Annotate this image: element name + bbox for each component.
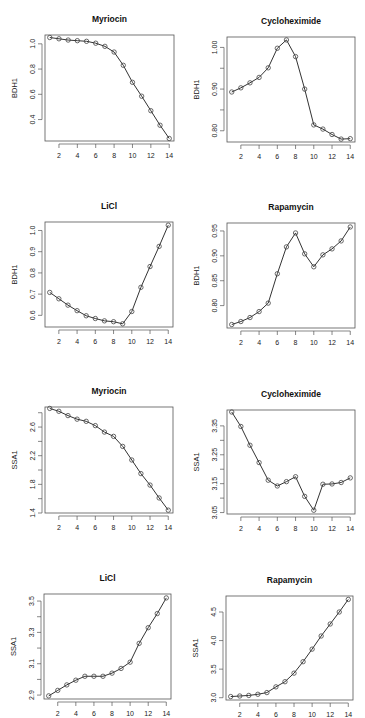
y-tick-label: 3.35 [211, 419, 218, 433]
y-tick-label: 0.90 [211, 82, 218, 96]
x-tick-label: 8 [292, 711, 296, 718]
plot-frame [227, 37, 355, 142]
x-tick-label: 14 [346, 153, 354, 160]
x-tick-label: 14 [344, 711, 352, 718]
x-tick-label: 14 [164, 524, 172, 531]
y-tick-label: 3.5 [28, 596, 35, 606]
x-tick-label: 12 [147, 152, 155, 159]
x-tick-label: 4 [75, 152, 79, 159]
y-tick-label: 4.5 [210, 607, 217, 617]
y-axis-label: BDH1 [192, 265, 201, 285]
data-line [232, 412, 351, 510]
x-tick-label: 12 [146, 338, 154, 345]
y-tick-label: 3.15 [211, 477, 218, 491]
y-tick-label: 4.0 [210, 636, 217, 646]
y-tick-label: 0.6 [29, 89, 36, 99]
chart-title: Rapamycin [267, 575, 312, 585]
plot-frame [227, 223, 355, 328]
x-tick-label: 8 [110, 710, 114, 717]
y-tick-label: 1.0 [29, 226, 36, 236]
y-tick-label: 3.1 [28, 659, 35, 669]
x-tick-label: 12 [328, 339, 336, 346]
y-axis-label: BDH1 [10, 78, 19, 98]
x-tick-label: 8 [294, 153, 298, 160]
y-tick-label: 0.80 [211, 124, 218, 138]
x-tick-label: 2 [57, 524, 61, 531]
x-tick-label: 14 [165, 152, 173, 159]
x-tick-label: 4 [257, 525, 261, 532]
y-tick-label: 2.2 [29, 451, 36, 461]
x-tick-label: 6 [93, 338, 97, 345]
y-tick-label: 1.0 [29, 39, 36, 49]
x-tick-label: 6 [275, 525, 279, 532]
x-tick-label: 10 [310, 339, 318, 346]
x-tick-label: 6 [275, 153, 279, 160]
y-tick-label: 2.6 [29, 422, 36, 432]
data-line [232, 227, 351, 325]
x-tick-label: 6 [93, 524, 97, 531]
x-tick-label: 12 [328, 153, 336, 160]
y-tick-label: 1.4 [29, 508, 36, 518]
x-tick-label: 6 [94, 152, 98, 159]
x-tick-label: 10 [128, 338, 136, 345]
x-tick-label: 10 [129, 152, 137, 159]
chart-title: Myriocin [92, 14, 127, 24]
x-tick-label: 2 [56, 710, 60, 717]
y-tick-label: 0.6 [29, 310, 36, 320]
x-tick-label: 2 [238, 711, 242, 718]
y-axis-label: SSA1 [9, 637, 18, 656]
y-tick-label: 0.8 [29, 64, 36, 74]
chart-panel-rapamycin-bdh1: Rapamycin24681012140.800.850.900.95BDH1 [182, 180, 364, 359]
chart-panel-licl-bdh1: LiCl24681012140.60.70.80.91.0BDH1 [0, 180, 182, 359]
y-axis-label: BDH1 [192, 79, 201, 99]
chart-panel-cycloheximide-bdh1: Cycloheximide24681012140.800.901.00BDH1 [182, 0, 364, 179]
data-line [232, 40, 351, 139]
data-line [50, 38, 169, 139]
y-tick-label: 0.80 [211, 299, 218, 313]
y-axis-label: SSA1 [10, 450, 19, 469]
chart-title: Cycloheximide [261, 389, 321, 399]
x-tick-label: 2 [239, 339, 243, 346]
chart-panel-rapamycin-ssa1: Rapamycin24681012143.03.54.04.5SSA1 [182, 540, 364, 718]
x-tick-label: 2 [57, 338, 61, 345]
y-axis-label: SSA1 [191, 638, 200, 657]
chart-panel-myriocin-ssa1: Myriocin24681012141.41.82.22.6SSA1 [0, 360, 182, 539]
chart-grid: Myriocin24681012140.40.60.81.0BDH1Cycloh… [0, 0, 365, 718]
x-tick-label: 6 [274, 711, 278, 718]
y-tick-label: 3.25 [211, 448, 218, 462]
data-line [50, 408, 169, 510]
x-tick-label: 6 [275, 339, 279, 346]
y-tick-label: 0.4 [29, 115, 36, 125]
y-axis-label: SSA1 [192, 452, 201, 471]
x-tick-label: 4 [75, 338, 79, 345]
y-axis-label: BDH1 [10, 264, 19, 284]
x-tick-label: 12 [144, 710, 152, 717]
plot-frame [44, 594, 171, 699]
y-tick-label: 3.0 [210, 693, 217, 703]
x-tick-label: 12 [328, 525, 336, 532]
data-line [50, 225, 169, 324]
y-tick-label: 0.8 [29, 268, 36, 278]
x-tick-label: 4 [257, 153, 261, 160]
y-tick-label: 0.90 [211, 249, 218, 263]
chart-panel-licl-ssa1: LiCl24681012142.93.13.33.5SSA1 [0, 540, 182, 718]
x-tick-label: 10 [308, 711, 316, 718]
x-tick-label: 4 [74, 710, 78, 717]
x-tick-label: 10 [310, 153, 318, 160]
y-tick-label: 2.9 [28, 690, 35, 700]
y-tick-label: 3.05 [211, 506, 218, 520]
chart-title: Rapamycin [268, 202, 313, 212]
chart-title: LiCl [99, 573, 115, 583]
x-tick-label: 2 [239, 153, 243, 160]
x-tick-label: 14 [346, 339, 354, 346]
plot-frame [226, 596, 353, 700]
x-tick-label: 12 [326, 711, 334, 718]
y-tick-label: 3.3 [28, 627, 35, 637]
chart-title: Cycloheximide [261, 16, 321, 26]
chart-panel-myriocin-bdh1: Myriocin24681012140.40.60.81.0BDH1 [0, 0, 182, 179]
data-line [231, 599, 349, 696]
y-tick-label: 0.95 [211, 224, 218, 238]
x-tick-label: 14 [162, 710, 170, 717]
y-tick-label: 1.00 [211, 40, 218, 54]
x-tick-label: 14 [164, 338, 172, 345]
